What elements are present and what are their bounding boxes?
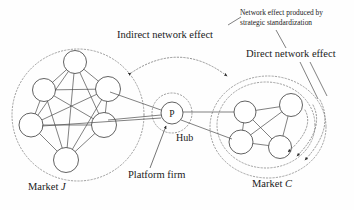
label-strategic-line2: strategic standardization (240, 18, 323, 28)
label-market-j-symbol: J (61, 181, 66, 192)
node-c4 (269, 136, 292, 159)
network-diagram-figure: P Indirect network effect Direct network… (0, 0, 354, 210)
market-c-boundary (210, 76, 326, 178)
platform-firm-pointer (150, 126, 166, 168)
label-platform-firm: Platform firm (128, 169, 185, 181)
node-j6 (54, 148, 79, 173)
label-market-c: Market C (252, 178, 292, 190)
label-direct-network-effect: Direct network effect (246, 48, 336, 60)
hub-node: P (161, 102, 183, 124)
indirect-network-effect-arc (131, 57, 227, 76)
label-strategic-standardization: Network effect produced by strategic sta… (240, 8, 323, 27)
node-c3 (229, 130, 253, 154)
label-market-c-symbol: C (285, 178, 292, 189)
hub-node-letter: P (169, 109, 174, 119)
label-market-j: Market J (28, 181, 66, 193)
label-market-j-prefix: Market (28, 181, 61, 192)
label-market-c-prefix: Market (252, 178, 285, 189)
node-j1 (64, 51, 87, 74)
node-c2 (280, 94, 303, 117)
node-j2 (33, 79, 56, 102)
label-hub: Hub (176, 132, 193, 143)
label-indirect-network-effect: Indirect network effect (117, 29, 213, 41)
label-strategic-line1: Network effect produced by (240, 8, 323, 18)
node-j3 (96, 77, 121, 102)
node-j4 (19, 113, 43, 137)
node-j5 (92, 113, 117, 138)
market-j-edges (31, 62, 108, 160)
node-c1 (234, 101, 256, 123)
